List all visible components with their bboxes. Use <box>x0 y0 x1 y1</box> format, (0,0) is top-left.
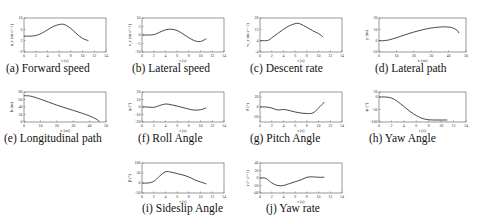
x-tick-label: 4 <box>282 123 284 128</box>
x-tick-label: 0 <box>259 123 261 128</box>
x-tick-label: 4 <box>403 123 405 128</box>
y-tick-label: 20 <box>137 89 141 94</box>
x-tick-label: 12 <box>328 53 332 58</box>
chart-panel-sideslip-angle: 02468101214-50050100t (s)β (°) (i) Sides… <box>118 145 236 219</box>
y-tick-label: 0 <box>257 175 259 180</box>
y-axis-label: h (m) <box>9 102 14 112</box>
x-tick-label: 2 <box>271 123 273 128</box>
x-tick-label: 2 <box>271 194 273 199</box>
y-axis-label: y (m) <box>364 30 369 40</box>
x-tick-label: 10 <box>317 123 321 128</box>
plot-area <box>260 18 342 52</box>
line-chart: 02468101214-441220t (s)w_r (m s^-1) <box>236 0 354 62</box>
y-tick-label: 4 <box>257 38 259 43</box>
x-tick-label: 4 <box>282 53 284 58</box>
y-tick-label: 20 <box>255 94 259 99</box>
y-tick-label: -50 <box>135 190 140 195</box>
x-tick-label: 6 <box>294 53 296 58</box>
y-tick-label: 50 <box>137 170 141 175</box>
chart-caption: (a) Forward speed <box>6 62 90 74</box>
x-tick-label: 0 <box>23 53 25 58</box>
x-tick-label: 8 <box>306 194 308 199</box>
x-tick-label: 14 <box>340 194 344 199</box>
x-tick-label: 12 <box>210 123 214 128</box>
chart-panel-pitch-angle: 02468101214-20020t (s)θ (°) (g) Pitch An… <box>236 74 354 146</box>
chart-panel-yaw-angle: 02468101214-100-50020t (s)ψ (°) (h) Yaw … <box>355 74 478 146</box>
x-tick-label: 8 <box>188 123 190 128</box>
x-tick-label: 6 <box>176 194 178 199</box>
line-chart: 02468101214-20-1001020t (s)φ (°) <box>118 74 236 132</box>
x-tick-label: 50 <box>464 53 468 58</box>
chart-caption: (e) Longitudinal path <box>4 132 102 144</box>
line-chart: 02468101214-40-2002040t (s)r (° s^-1) <box>236 145 354 203</box>
y-axis-label: θ (°) <box>245 102 250 111</box>
chart-panel-descent-rate: 02468101214-441220t (s)w_r (m s^-1) (c) … <box>236 0 354 74</box>
plot-area <box>142 163 224 193</box>
x-tick-label: 8 <box>306 53 308 58</box>
x-tick-label: 14 <box>222 194 226 199</box>
chart-caption: (g) Pitch Angle <box>250 132 320 144</box>
y-tick-label: 0 <box>21 119 23 124</box>
y-tick-label: 40 <box>19 104 23 109</box>
x-tick-label: 14 <box>464 123 468 128</box>
y-tick-label: -10 <box>372 49 377 54</box>
chart-caption: (i) Sideslip Angle <box>142 202 223 214</box>
x-tick-label: 2 <box>153 194 155 199</box>
y-axis-label: ψ (°) <box>364 102 369 111</box>
x-tick-label: 0 <box>378 123 380 128</box>
y-tick-label: 10 <box>19 15 23 20</box>
plot-area <box>379 92 466 122</box>
y-tick-label: -40 <box>253 190 258 195</box>
x-tick-label: 12 <box>328 194 332 199</box>
x-tick-label: 0 <box>23 123 25 128</box>
x-tick-label: 10 <box>199 53 203 58</box>
line-chart: 01020304050-1001020x (m)y (m) <box>355 0 478 62</box>
y-tick-label: -100 <box>370 119 377 124</box>
x-tick-label: 14 <box>222 123 226 128</box>
x-tick-label: 6 <box>415 123 417 128</box>
y-tick-label: -2 <box>19 49 22 54</box>
x-tick-label: 10 <box>439 123 443 128</box>
x-tick-label: 2 <box>153 123 155 128</box>
chart-panel-lateral-path: 01020304050-1001020x (m)y (m) (d) Latera… <box>355 0 478 74</box>
y-tick-label: 60 <box>19 97 23 102</box>
y-axis-label: v_r (m s^-1) <box>127 23 132 46</box>
x-tick-label: 10 <box>38 123 42 128</box>
y-tick-label: 20 <box>255 168 259 173</box>
y-tick-label: -5 <box>137 41 140 46</box>
x-tick-label: 30 <box>71 123 75 128</box>
y-axis-label: r (° s^-1) <box>245 169 250 186</box>
x-tick-label: 6 <box>176 123 178 128</box>
y-tick-label: -50 <box>372 107 377 112</box>
x-tick-label: 6 <box>58 53 60 58</box>
plot-area <box>260 92 342 122</box>
x-tick-label: 40 <box>88 123 92 128</box>
x-tick-label: 12 <box>92 53 96 58</box>
y-tick-label: -20 <box>253 183 258 188</box>
line-chart: 02468101214-50050100t (s)β (°) <box>118 145 236 203</box>
y-tick-label: 0 <box>139 104 141 109</box>
x-tick-label: 6 <box>176 53 178 58</box>
x-tick-label: 20 <box>412 53 416 58</box>
x-tick-label: 10 <box>81 53 85 58</box>
y-tick-label: 10 <box>137 15 141 20</box>
y-tick-label: 5 <box>139 24 141 29</box>
y-tick-label: -20 <box>253 114 258 119</box>
x-tick-label: 4 <box>164 123 166 128</box>
x-tick-label: 14 <box>104 53 108 58</box>
x-tick-label: 2 <box>271 53 273 58</box>
x-tick-label: 10 <box>394 53 398 58</box>
y-tick-label: 20 <box>255 15 259 20</box>
x-tick-label: 20 <box>55 123 59 128</box>
y-tick-label: 80 <box>19 89 23 94</box>
x-tick-label: 6 <box>294 123 296 128</box>
x-tick-label: 10 <box>199 123 203 128</box>
x-tick-label: 0 <box>141 194 143 199</box>
x-tick-label: 12 <box>210 53 214 58</box>
x-tick-label: 2 <box>153 53 155 58</box>
x-tick-label: 14 <box>340 123 344 128</box>
chart-panel-roll-angle: 02468101214-20-1001020t (s)φ (°) (f) Rol… <box>118 74 236 146</box>
chart-panel-longitudinal-path: 01020304050020406080x (m)h (m) (e) Longi… <box>0 74 118 146</box>
y-tick-label: 20 <box>374 15 378 20</box>
y-tick-label: 6 <box>21 27 23 32</box>
